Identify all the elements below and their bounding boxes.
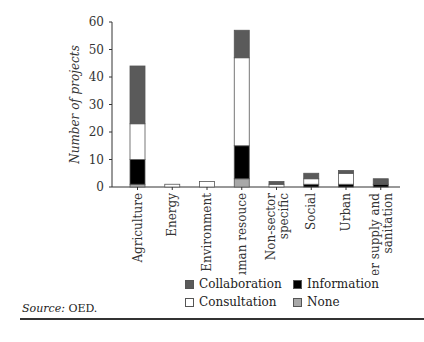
y-tick-label: 30 [89,98,104,112]
bar-segment-consultation [234,58,249,146]
y-tick-label: 10 [89,153,104,167]
bar-segment-information [373,184,388,187]
swatch-information [293,280,302,289]
bar-segment-consultation [339,173,354,184]
x-tick-label: Environment [200,193,214,272]
legend-label: Information [307,277,379,291]
y-tick-label: 50 [89,43,104,57]
legend-item-collaboration: Collaboration [185,277,282,291]
x-tick-label: Non-sectorspecific [264,193,291,261]
y-tick-label: 60 [89,15,104,29]
bar-segment-collaboration [269,182,284,185]
bar-segment-consultation [200,182,215,188]
bar-segment-information [304,184,319,187]
bar-segment-none [234,179,249,187]
legend-item-information: Information [293,277,379,291]
bar-segment-consultation [304,179,319,185]
x-tick-label: Social [304,193,318,230]
x-tick-label: Urban [339,193,353,232]
swatch-collaboration [185,280,194,289]
y-axis-label: Number of projects [68,45,82,165]
bar-segment-collaboration [373,179,388,185]
bar-segment-none [130,184,145,187]
bar-segment-collaboration [130,66,145,124]
bottom-rule [20,318,424,320]
source-label: Source: [22,302,65,315]
y-tick-label: 0 [96,180,104,194]
y-tick-label: 20 [89,125,104,139]
y-tick-label: 40 [89,70,104,84]
bar-segment-consultation [130,124,145,160]
bar-segment-information [339,184,354,187]
x-tick-label: Agriculture [131,193,145,264]
bar-segment-consultation [165,184,180,187]
legend-item-none: None [293,295,340,309]
legend-label: Consultation [199,295,276,309]
legend-label: Collaboration [199,277,282,291]
source-text: OED. [68,302,97,315]
x-tick-label: Human resouce [235,193,249,275]
x-tick-label: Water supply andsanitation [368,193,395,275]
bar-segment-information [130,160,145,185]
swatch-consultation [185,298,194,307]
bar-segment-collaboration [234,30,249,58]
source-note: Source: OED. [22,302,97,315]
bar-segment-consultation [269,184,284,187]
x-tick-label: Energy [165,193,179,237]
legend-label: None [307,295,340,309]
bar-segment-collaboration [304,173,319,179]
stacked-bar-chart: 0102030405060Number of projectsAgricultu… [0,0,424,275]
bar-segment-collaboration [339,171,354,174]
bar-segment-information [234,146,249,179]
legend-item-consultation: Consultation [185,295,276,309]
swatch-none [293,298,302,307]
